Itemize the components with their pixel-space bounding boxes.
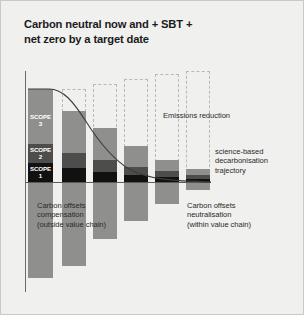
figure-panel: Carbon neutral now and + SBT + net zero … (0, 0, 304, 315)
chart-plot-area: SCOPE 3 SCOPE 2 SCOPE 1 Emissions reduct… (1, 1, 304, 315)
annotation-trajectory: science-based decarbonisation trajectory (215, 147, 299, 175)
annotation-offsets-neutralisation: Carbon offsets neutralisation (within va… (187, 201, 299, 229)
annotation-offsets-compensation: Carbon offsets compensation (outside val… (37, 201, 147, 229)
annotation-emissions-reduction: Emissions reduction (163, 111, 273, 120)
